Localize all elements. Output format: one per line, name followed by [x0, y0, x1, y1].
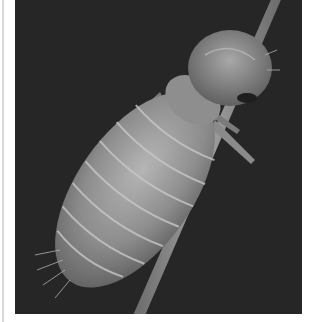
left-page-edge: [2, 0, 4, 322]
louse-illustration: [15, 0, 302, 314]
louse-head: [188, 30, 272, 106]
sem-photo: [15, 0, 302, 314]
